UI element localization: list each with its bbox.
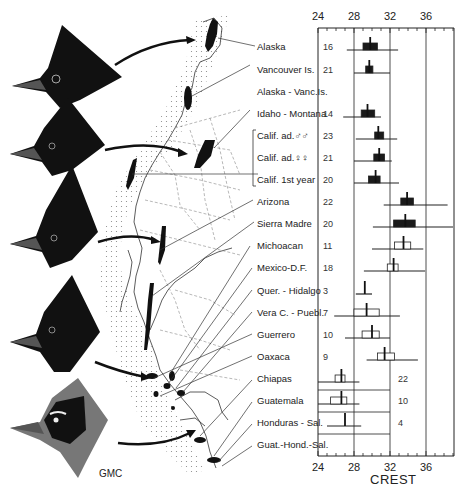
population-label: Chiapas (257, 373, 292, 384)
axis-title: CREST (370, 472, 417, 487)
population-label: Guatemala (257, 395, 303, 406)
population-label: Alaska (257, 41, 286, 52)
crest-bar (327, 413, 361, 426)
figure-artwork (0, 0, 465, 493)
crest-bar (373, 214, 453, 227)
sample-count: 21 (323, 153, 333, 163)
population-label: Calif. ad.♀♀ (257, 152, 309, 163)
population-label: Alaska - Vanc.Is. (257, 86, 328, 97)
arrowhead-icon (178, 148, 188, 157)
crest-bar (354, 170, 399, 183)
bird-head-2 (10, 98, 105, 176)
sample-count: 23 (323, 131, 333, 141)
guatemala-range (207, 457, 221, 463)
crest-bar (356, 126, 397, 139)
bottom-tick-24: 24 (312, 461, 324, 473)
sample-count: 14 (323, 109, 333, 119)
crest-bar (318, 369, 359, 382)
population-label: Guerrero (257, 329, 295, 340)
sample-count: 22 (398, 374, 408, 384)
vancouver-range (184, 86, 192, 110)
sample-count: 10 (323, 330, 333, 340)
crest-bar (354, 60, 390, 73)
population-label: Guat.-Hond.-Sal. (257, 439, 328, 450)
crest-bar (372, 236, 423, 249)
artist-signature: GMC (99, 468, 122, 479)
sample-count: 3 (323, 286, 328, 296)
sample-count: 10 (398, 396, 408, 406)
population-label: Vancouver Is. (257, 64, 314, 75)
crest-bar (318, 391, 359, 404)
population-label: Quer. - Hidalgo (257, 285, 321, 296)
top-tick-28: 28 (348, 10, 360, 22)
arizona-range (158, 226, 166, 265)
crest-bar (347, 37, 398, 50)
top-tick-32: 32 (384, 10, 396, 22)
bird-head-1 (12, 25, 122, 108)
sample-count: 21 (323, 65, 333, 75)
crest-bar (364, 258, 425, 271)
population-label: Michoacan (257, 240, 303, 251)
crest-bar (345, 325, 390, 338)
crest-bar (384, 192, 448, 205)
population-label: Arizona (257, 196, 289, 207)
crest-bar (356, 281, 372, 294)
sample-count: 20 (323, 219, 333, 229)
top-tick-36: 36 (420, 10, 432, 22)
sample-count: 11 (323, 241, 332, 251)
population-label: Honduras - Sal. (257, 417, 323, 428)
mexico-df-range (164, 383, 171, 389)
crest-bar (343, 104, 381, 117)
population-label: Vera C. - Puebl. (257, 307, 324, 318)
isthmus-range (171, 406, 175, 410)
bottom-tick-36: 36 (420, 461, 432, 473)
population-label: Mexico-D.F. (257, 262, 307, 273)
sample-count: 16 (323, 42, 333, 52)
bird-head-3 (10, 165, 98, 268)
oaxaca-range (154, 391, 159, 397)
sample-count: 9 (323, 352, 328, 362)
population-label: Idaho - Montana (257, 108, 326, 119)
population-label: Calif. ad.♂♂ (257, 130, 309, 141)
sample-count: 4 (398, 418, 403, 428)
axis-ticks (318, 28, 453, 456)
bottom-tick-28: 28 (348, 461, 360, 473)
chart-frame (318, 28, 454, 456)
sample-count: 7 (323, 308, 328, 318)
crest-bars (318, 37, 453, 426)
population-label: Calif. 1st year (257, 174, 315, 185)
population-label: Oaxaca (257, 351, 290, 362)
sample-count: 20 (323, 175, 333, 185)
calif-bracket (253, 130, 256, 186)
figure: AlaskaVancouver Is.Alaska - Vanc.Is.Idah… (0, 0, 465, 493)
idaho-montana-range (194, 140, 215, 168)
chiapas-range (194, 437, 206, 443)
sample-count: 18 (323, 263, 333, 273)
crest-bar (367, 347, 418, 360)
top-tick-24: 24 (312, 10, 324, 22)
bird-head-5 (10, 378, 108, 478)
arrowhead-icon (151, 236, 161, 244)
population-label: Sierra Madre (257, 218, 312, 229)
crest-bar (354, 148, 392, 161)
sample-count: 22 (323, 197, 333, 207)
bird-head-4 (10, 275, 100, 372)
